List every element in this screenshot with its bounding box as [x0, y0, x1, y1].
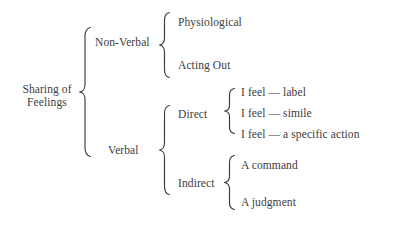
node-direct: Direct — [178, 108, 207, 121]
leaf-i-feel-simile-text: I feel — simile — [241, 107, 312, 119]
node-direct-label: Direct — [178, 108, 207, 120]
leaf-i-feel-simile: I feel — simile — [241, 107, 312, 120]
leaf-i-feel-specific-action-text: I feel — a specific action — [241, 128, 360, 140]
leaf-i-feel-label-text: I feel — label — [241, 86, 306, 98]
leaf-acting-out-label: Acting Out — [178, 59, 230, 71]
verbal-brace — [158, 104, 171, 196]
node-indirect-label: Indirect — [178, 177, 215, 189]
root-brace — [78, 26, 92, 158]
non-verbal-brace — [158, 11, 171, 79]
node-indirect: Indirect — [178, 177, 215, 190]
leaf-acting-out: Acting Out — [178, 59, 230, 72]
direct-brace — [223, 87, 236, 135]
leaf-i-feel-label: I feel — label — [241, 86, 306, 99]
leaf-i-feel-specific-action: I feel — a specific action — [241, 128, 360, 141]
leaf-a-command: A command — [241, 159, 298, 172]
root-node-sharing-of-feelings: Sharing of Feelings — [22, 83, 71, 109]
node-verbal: Verbal — [108, 144, 139, 157]
node-verbal-label: Verbal — [108, 144, 139, 156]
leaf-a-judgment-text: A judgment — [241, 196, 296, 208]
leaf-a-judgment: A judgment — [241, 196, 296, 209]
indirect-brace — [223, 154, 236, 212]
leaf-a-command-text: A command — [241, 159, 298, 171]
leaf-physiological-label: Physiological — [178, 16, 242, 28]
root-label-line-1: Sharing of — [22, 83, 71, 96]
root-label-line-2: Feelings — [22, 96, 71, 109]
bracket-tree-diagram: Sharing of Feelings Non-Verbal Physiolog… — [0, 0, 402, 227]
node-non-verbal: Non-Verbal — [95, 36, 150, 49]
leaf-physiological: Physiological — [178, 16, 242, 29]
node-non-verbal-label: Non-Verbal — [95, 36, 150, 48]
